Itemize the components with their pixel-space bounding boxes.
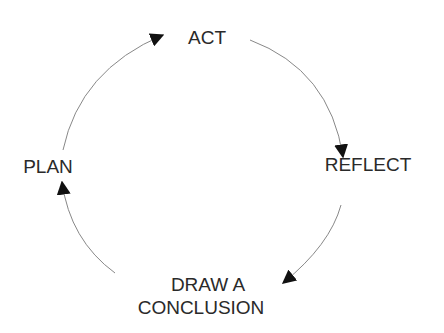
node-plan: PLAN [23,157,73,176]
node-act: ACT [188,28,226,47]
node-reflect: REFLECT [325,155,412,174]
node-conclusion-line2: CONCLUSION [138,298,265,317]
node-conclusion-line1: DRAW A [171,275,245,294]
arrow-plan-to-act [63,35,163,150]
arrow-conclusion-to-plan [62,182,115,273]
arrow-act-to-reflect [250,40,343,157]
arrow-reflect-to-conclusion [283,205,341,283]
